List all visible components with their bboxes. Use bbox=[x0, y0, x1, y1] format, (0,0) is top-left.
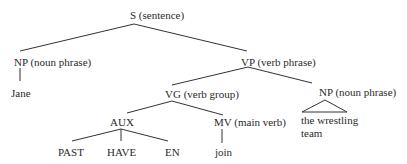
leaf-join: join bbox=[215, 146, 232, 158]
leaf-the-wrestling: the wrestling bbox=[301, 114, 358, 126]
leaf-team: team bbox=[301, 127, 322, 139]
leaf-have: HAVE bbox=[107, 146, 136, 158]
leaf-jane: Jane bbox=[11, 87, 31, 99]
node-vg: VG (verb group) bbox=[165, 88, 239, 100]
node-aux: AUX bbox=[110, 116, 134, 128]
node-np-object: NP (noun phrase) bbox=[319, 86, 396, 98]
node-s: S (sentence) bbox=[130, 9, 184, 21]
leaf-en: EN bbox=[165, 146, 180, 158]
node-mv: MV (main verb) bbox=[214, 116, 286, 128]
node-np-subject: NP (noun phrase) bbox=[14, 56, 91, 68]
tree-edges bbox=[0, 0, 407, 164]
leaf-past: PAST bbox=[58, 146, 84, 158]
node-vp: VP (verb phrase) bbox=[241, 56, 316, 68]
